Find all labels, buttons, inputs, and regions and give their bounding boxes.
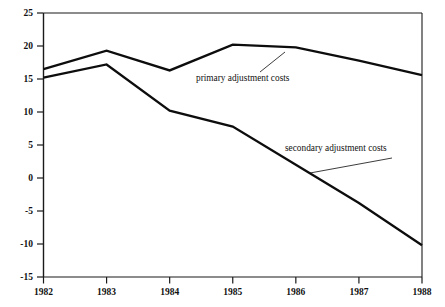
y-tick-label-10: 10 — [24, 107, 34, 117]
y-tick-label-25: 25 — [24, 8, 34, 18]
y-tick-label-0: 0 — [28, 173, 33, 183]
line-chart: 2520151050-5-10-15 198219831984198519861… — [0, 0, 445, 307]
chart-page: 2520151050-5-10-15 198219831984198519861… — [0, 0, 445, 307]
x-tick-label-1983: 1983 — [97, 287, 116, 297]
x-tick-label-1987: 1987 — [349, 287, 368, 297]
x-tick-label-1982: 1982 — [34, 287, 53, 297]
y-tick-label--15: -15 — [20, 272, 33, 282]
y-tick-label--5: -5 — [25, 206, 33, 216]
x-tick-label-1984: 1984 — [160, 287, 179, 297]
y-tick-label-15: 15 — [24, 74, 34, 84]
x-tick-label-1985: 1985 — [223, 287, 242, 297]
chart-background — [0, 0, 445, 307]
x-tick-label-1988: 1988 — [413, 287, 432, 297]
y-tick-label-5: 5 — [28, 140, 33, 150]
annotation-label-secondary: secondary adjustment costs — [285, 143, 387, 153]
annotation-label-primary: primary adjustment costs — [196, 73, 290, 83]
y-tick-label--10: -10 — [20, 239, 33, 249]
x-tick-label-1986: 1986 — [286, 287, 305, 297]
y-tick-label-20: 20 — [24, 41, 34, 51]
